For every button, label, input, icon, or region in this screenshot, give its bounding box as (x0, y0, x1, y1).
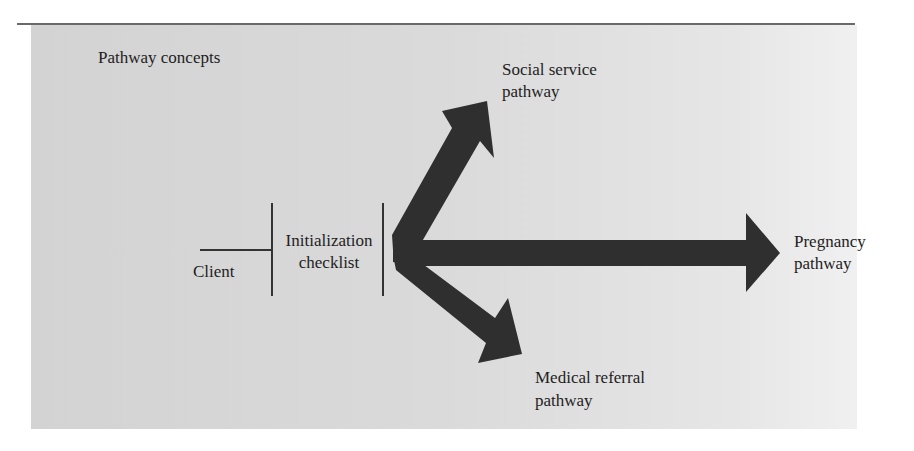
social-service-arrow (392, 101, 494, 250)
pregnancy-arrow (393, 213, 780, 292)
social-service-label-line2: pathway (502, 81, 560, 103)
diagram-title: Pathway concepts (98, 47, 220, 69)
social-service-label-line1: Social service (502, 59, 597, 81)
pregnancy-label-line2: pathway (794, 253, 852, 275)
client-label: Client (193, 261, 235, 283)
pregnancy-label-line1: Pregnancy (794, 231, 866, 253)
checklist-label-line2: checklist (275, 252, 383, 274)
medical-referral-arrow (393, 255, 522, 363)
checklist-label-line1: Initialization (275, 230, 383, 252)
medical-referral-label-line1: Medical referral (535, 367, 645, 389)
medical-referral-label-line2: pathway (535, 390, 593, 412)
